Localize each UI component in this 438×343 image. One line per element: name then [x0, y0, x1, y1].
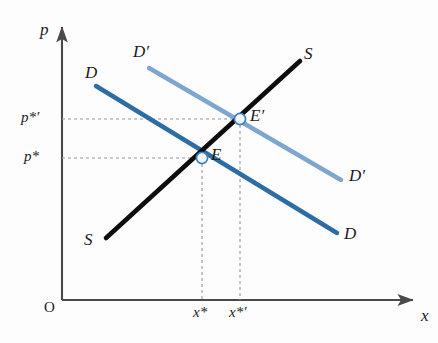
supply-curve	[106, 61, 300, 238]
supply-demand-figure: p x O p*′ p* x* x*′ D D D′ D′ S S E E′	[0, 0, 438, 343]
equilibrium-label-E: E	[211, 146, 221, 163]
demand-label-top: D	[85, 64, 97, 81]
supply-label-bottom: S	[84, 231, 93, 248]
price-tick-original: p*	[24, 149, 39, 164]
y-axis-label: p	[40, 21, 49, 38]
equilibrium-label-E-prime: E′	[250, 107, 264, 124]
supply-label-top: S	[304, 45, 313, 62]
demand-shifted-curve	[149, 68, 341, 180]
quantity-tick-shifted: x*′	[229, 305, 246, 320]
plot-canvas	[0, 0, 438, 343]
demand-label-bottom: D	[344, 225, 356, 242]
equilibrium-marker-E-prime	[234, 113, 245, 124]
axis-group	[62, 27, 413, 300]
x-axis-label: x	[421, 307, 429, 324]
origin-label: O	[44, 300, 55, 315]
equilibrium-marker-E	[196, 152, 207, 163]
demand-shifted-label-top: D′	[133, 43, 149, 60]
demand-shifted-label-bottom: D′	[349, 167, 365, 184]
quantity-tick-original: x*	[193, 305, 207, 320]
price-tick-shifted: p*′	[21, 110, 39, 125]
